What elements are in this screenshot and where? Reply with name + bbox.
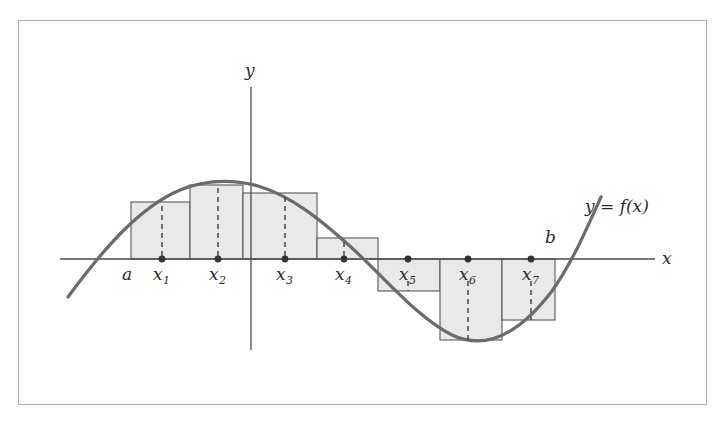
sample-point-label-4: x4 [335,266,352,283]
x-axis-label: x [662,250,672,267]
sample-point-label-7: x7 [522,266,539,283]
sample-point-label-5: x5 [399,266,416,283]
curve-equation-label: y = f(x) [585,198,649,215]
riemann-rectangle-4 [317,238,378,259]
y-axis-label: y [245,62,255,79]
figure-root: yxabx1x2x3x4x5x6x7y = f(x) [0,0,724,427]
riemann-rectangle-2 [190,185,243,259]
sample-point-dot-7 [528,256,535,263]
sample-point-label-6: x6 [459,266,476,283]
sample-point-label-1: x1 [153,266,170,283]
riemann-rectangle-3 [243,193,317,259]
sample-point-dot-2 [215,256,222,263]
endpoint-label-b: b [545,229,556,246]
sample-point-dot-5 [405,256,412,263]
sample-point-dot-6 [465,256,472,263]
sample-point-label-3: x3 [276,266,293,283]
riemann-rectangles-layer [131,185,555,340]
sample-point-dot-3 [282,256,289,263]
endpoint-label-a: a [122,266,132,283]
riemann-rectangle-1 [131,202,190,259]
sample-point-dot-4 [341,256,348,263]
sample-point-label-2: x2 [209,266,226,283]
sample-point-dot-1 [159,256,166,263]
